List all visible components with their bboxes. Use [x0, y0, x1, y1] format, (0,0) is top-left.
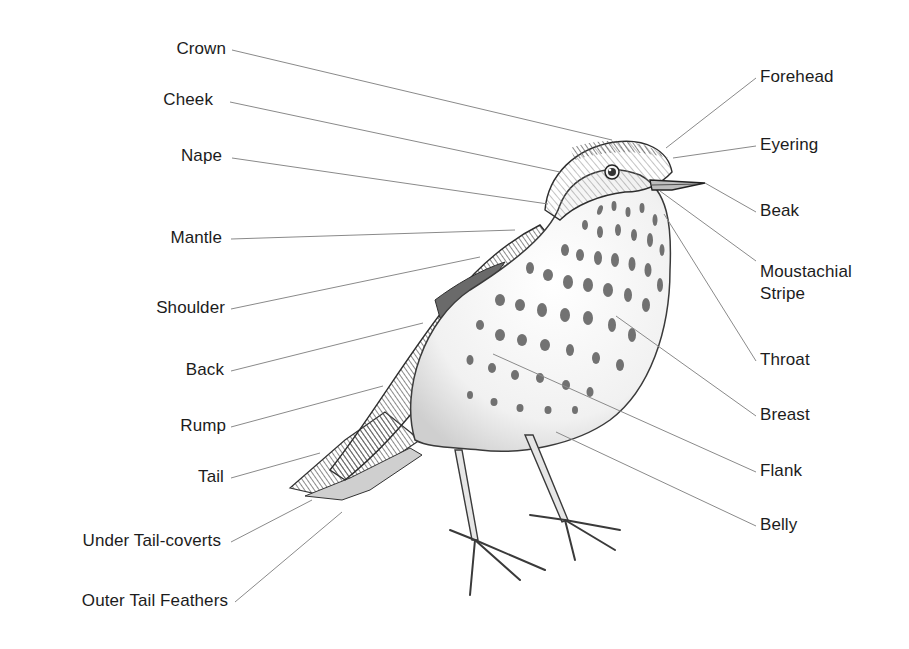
label-mantle: Mantle: [170, 228, 222, 248]
label-under-tail-coverts: Under Tail-coverts: [83, 531, 221, 551]
label-flank: Flank: [760, 461, 802, 481]
label-crown: Crown: [176, 39, 226, 59]
leader-line-throat: [664, 214, 756, 361]
leader-line-rump: [231, 386, 383, 427]
label-forehead: Forehead: [760, 67, 834, 87]
label-breast: Breast: [760, 405, 810, 425]
leader-line-belly: [556, 432, 756, 526]
label-beak: Beak: [760, 201, 799, 221]
label-cheek: Cheek: [163, 90, 213, 110]
label-belly: Belly: [760, 515, 797, 535]
label-eyering: Eyering: [760, 135, 818, 155]
label-shoulder: Shoulder: [156, 298, 225, 318]
bird-illustration: [0, 0, 909, 649]
label-throat: Throat: [760, 350, 810, 370]
leader-line-beak: [705, 183, 756, 212]
label-moustachial-stripe: Moustachial Stripe: [760, 262, 852, 304]
label-back: Back: [186, 360, 224, 380]
label-rump: Rump: [180, 416, 226, 436]
label-nape: Nape: [181, 146, 222, 166]
leader-line-under-tail-coverts: [231, 500, 312, 542]
leader-line-mantle: [231, 230, 515, 239]
label-moustachial-line2: Stripe: [760, 284, 852, 304]
leader-line-moustachial-stripe: [660, 191, 756, 261]
leader-line-forehead: [666, 78, 756, 148]
label-moustachial-line1: Moustachial: [760, 262, 852, 282]
label-outer-tail-feathers: Outer Tail Feathers: [82, 591, 228, 611]
leader-line-back: [231, 323, 423, 371]
leader-line-outer-tail-feathers: [235, 512, 342, 602]
leader-line-cheek: [230, 102, 560, 172]
leader-line-crown: [232, 50, 612, 140]
label-tail: Tail: [198, 467, 224, 487]
leader-line-eyering: [673, 146, 756, 158]
leader-line-nape: [232, 158, 548, 204]
